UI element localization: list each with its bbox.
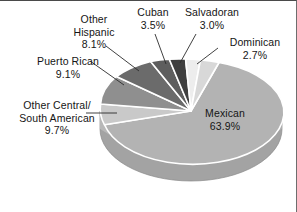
label-dominican-value: 2.7% — [216, 49, 294, 62]
label-cuban: Cuban 3.5% — [127, 6, 179, 31]
figure-frame: Other Hispanic 8.1% Cuban 3.5% Salvadora… — [0, 0, 297, 212]
label-salvadoran: Salvadoran 3.0% — [179, 6, 245, 31]
label-other-central-name-line1: Other Central/ — [2, 99, 112, 112]
label-other-central-value: 9.7% — [2, 124, 112, 137]
label-other-central-name-line2: South American — [2, 112, 112, 125]
label-other-central-south-american: Other Central/ South American 9.7% — [2, 99, 112, 137]
label-salvadoran-value: 3.0% — [179, 19, 245, 32]
label-cuban-value: 3.5% — [127, 19, 179, 32]
label-salvadoran-name: Salvadoran — [179, 6, 245, 19]
label-mexican-value: 63.9% — [196, 120, 254, 133]
label-puerto-rican-name: Puerto Rican — [28, 55, 108, 68]
label-dominican-name: Dominican — [216, 36, 294, 49]
label-other-hispanic-name-line2: Hispanic — [63, 26, 125, 39]
pie-slices-top — [100, 59, 284, 164]
label-other-hispanic: Other Hispanic 8.1% — [63, 13, 125, 51]
label-puerto-rican-value: 9.1% — [28, 68, 108, 81]
label-dominican: Dominican 2.7% — [216, 36, 294, 61]
label-puerto-rican: Puerto Rican 9.1% — [28, 55, 108, 80]
label-cuban-name: Cuban — [127, 6, 179, 19]
label-other-hispanic-name-line1: Other — [63, 13, 125, 26]
pie-chart: Other Hispanic 8.1% Cuban 3.5% Salvadora… — [0, 1, 296, 212]
label-other-hispanic-value: 8.1% — [63, 38, 125, 51]
label-mexican-name: Mexican — [196, 107, 254, 120]
label-mexican: Mexican 63.9% — [196, 107, 254, 132]
